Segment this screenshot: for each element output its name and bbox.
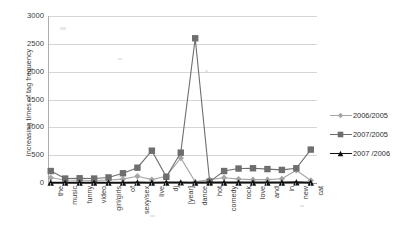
plot-area (48, 16, 317, 184)
x-tick-label-text: and (272, 186, 281, 198)
data-point-square (149, 148, 155, 154)
data-point-square (48, 168, 54, 174)
data-point-diamond (338, 113, 344, 119)
scan-artifact (205, 70, 208, 72)
x-tick-mark (194, 183, 195, 186)
data-point-square (279, 167, 285, 173)
x-tick-label: video (96, 186, 105, 203)
x-tick-label-text: dj (171, 186, 180, 192)
legend-item[interactable]: 2007 /2006 (330, 146, 409, 161)
legend-marker-diamond-icon (337, 112, 344, 119)
x-tick-mark (252, 183, 253, 186)
x-tick-label-text: rock (244, 186, 253, 200)
y-tick-label: 1500 (18, 96, 44, 104)
x-tick-label: rock (241, 186, 250, 200)
data-point-square (221, 168, 227, 174)
x-tick-label-text: sexy/sex (142, 186, 151, 214)
legend-item[interactable]: 2007/2005 (330, 127, 409, 142)
x-tick-label-text: [year] (186, 186, 195, 204)
scan-artifact (150, 215, 155, 217)
x-tick-label-text: new (301, 186, 310, 199)
x-tick-label: sexy/sex (139, 186, 148, 214)
x-tick-label: comedy (226, 186, 235, 211)
x-tick-mark (108, 183, 109, 186)
x-tick-mark (79, 183, 80, 186)
data-point-square (120, 170, 126, 176)
legend-marker-triangle-icon (337, 150, 344, 157)
x-tick-label: dance (197, 186, 206, 206)
y-tick-label: 2500 (18, 40, 44, 48)
scan-artifact (60, 27, 66, 30)
x-tick-mark (136, 183, 137, 186)
x-axis-tick-labels: themusicfunnyvideogirl/girlsofsexy/sexli… (48, 186, 316, 246)
x-tick-label: live (154, 186, 163, 197)
x-tick-label: and (269, 186, 278, 198)
legend-label: 2007 /2006 (352, 149, 390, 158)
x-tick-label-text: love (258, 186, 267, 199)
data-point-square (264, 166, 270, 172)
x-tick-mark (151, 183, 152, 186)
data-point-square (308, 146, 314, 152)
x-tick-mark (223, 183, 224, 186)
x-tick-label: of (125, 186, 134, 192)
x-tick-mark (165, 183, 166, 186)
data-point-triangle (338, 151, 344, 157)
x-tick-label: dj (168, 186, 177, 192)
x-tick-label: cat (313, 186, 322, 196)
x-tick-mark (64, 183, 65, 186)
x-tick-label: new (298, 186, 307, 199)
x-tick-label: in (284, 186, 293, 192)
x-tick-label: [year] (183, 186, 192, 204)
scan-artifact (300, 205, 304, 207)
x-tick-mark (295, 183, 296, 186)
y-tick-label: 0 (18, 179, 44, 187)
legend-item[interactable]: 2006/2005 (330, 108, 409, 123)
data-point-square (235, 165, 241, 171)
x-tick-mark (180, 183, 181, 186)
x-tick-label-text: the (56, 186, 65, 196)
x-tick-label-text: funny (85, 186, 94, 204)
x-tick-label-text: dance (200, 186, 209, 206)
data-point-square (192, 35, 198, 41)
x-tick-label-text: cat (316, 186, 325, 196)
x-tick-label-text: live (157, 186, 166, 197)
legend-label: 2007/2005 (352, 130, 388, 139)
x-tick-label: love (255, 186, 264, 199)
series-canvas (49, 16, 317, 183)
y-tick-label: 1000 (18, 123, 44, 131)
x-tick-mark (238, 183, 239, 186)
legend-marker-square-icon (337, 131, 344, 138)
x-tick-label-text: of (128, 186, 137, 192)
x-tick-mark (310, 183, 311, 186)
line-chart: Increasing times of tag frequency 300025… (0, 0, 409, 246)
x-tick-label-text: girl/girls (114, 186, 123, 211)
data-point-square (178, 149, 184, 155)
x-tick-label: girl/girls (111, 186, 120, 211)
data-point-square (293, 165, 299, 171)
legend-swatch (330, 148, 352, 159)
x-tick-label-text: video (99, 186, 108, 203)
x-tick-mark (122, 183, 123, 186)
y-tick-label: 3000 (18, 12, 44, 20)
data-point-square (338, 132, 344, 138)
data-point-diamond (134, 173, 140, 179)
x-tick-mark (281, 183, 282, 186)
y-axis-tick-labels: 300025002000150010005000 (18, 10, 44, 190)
chart-legend: 2006/20052007/20052007 /2006 (330, 108, 409, 165)
legend-swatch (330, 110, 352, 121)
data-point-square (163, 174, 169, 180)
x-tick-label: music (67, 186, 76, 205)
y-tick-label: 2000 (18, 68, 44, 76)
y-tick-label: 500 (18, 151, 44, 159)
x-tick-mark (266, 183, 267, 186)
x-tick-label-text: comedy (229, 186, 238, 211)
x-tick-label-text: in (287, 186, 296, 192)
x-tick-mark (93, 183, 94, 186)
data-point-square (134, 164, 140, 170)
x-tick-mark (209, 183, 210, 186)
legend-label: 2006/2005 (352, 111, 388, 120)
x-tick-mark (50, 183, 51, 186)
legend-swatch (330, 129, 352, 140)
data-point-square (250, 165, 256, 171)
x-tick-label: the (53, 186, 62, 196)
